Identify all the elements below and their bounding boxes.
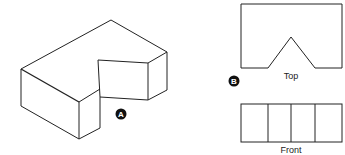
top-view-label: Top (284, 71, 299, 81)
front-view (241, 104, 342, 142)
label-b-badge: B (229, 76, 240, 87)
top-view (241, 4, 342, 68)
diagram-canvas: A Top B Front (0, 0, 345, 155)
front-view-label: Front (280, 145, 302, 155)
label-a: A (118, 110, 124, 119)
isometric-block (21, 20, 167, 139)
label-a-badge: A (116, 109, 127, 120)
label-b: B (231, 77, 237, 86)
